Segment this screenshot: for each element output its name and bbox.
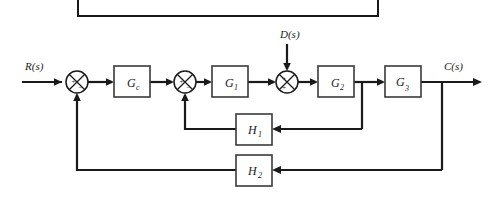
block-diagram-canvas: G c G 1 G 2 G 3 H 1 H [0,0,496,199]
sum3-sign-plus-bottom: + [282,84,286,92]
block-g3-label: G [396,75,405,89]
block-g3[interactable]: G 3 [385,66,421,97]
wire-h1-to-sum2 [185,95,236,129]
block-g1[interactable]: G 1 [212,66,248,97]
arrowhead-g1-in [204,78,212,86]
block-h1-subscript: 1 [258,130,262,139]
sum1-sign-plus: + [72,78,76,86]
arrowhead-h1-in [272,125,281,133]
block-h2-label: H [247,164,258,178]
sum3-sign-plus-top: + [282,75,286,83]
block-g2-label: G [331,76,340,90]
arrowhead-sum2-in [166,78,174,86]
arrowhead-g3-in [377,78,385,86]
arrowhead-sum1-feedback [73,93,81,101]
disturbance-signal-label: D(s) [279,28,300,41]
block-h2-subscript: 2 [258,171,262,180]
block-h2[interactable]: H 2 [236,155,272,186]
block-gc[interactable]: G c [114,66,150,97]
summing-junction-2[interactable]: + − [174,71,196,93]
arrowhead-output [473,78,482,86]
arrowhead-gc-in [106,78,114,86]
sum2-sign-plus: + [180,78,184,86]
arrowhead-h2-in [272,166,281,174]
block-h1-label: H [247,123,258,137]
input-signal-label: R(s) [24,60,44,73]
block-gc-subscript: c [136,83,140,92]
sum1-sign-minus: − [79,84,83,92]
arrowhead-g2-in [310,78,318,86]
block-diagram-figure: G c G 1 G 2 G 3 H 1 H [0,0,496,199]
block-g3-subscript: 3 [404,84,409,93]
block-g2[interactable]: G 2 [318,66,354,97]
wire-h2-to-sum1 [77,95,236,170]
arrowhead-input [54,78,62,86]
block-g1-label: G [225,76,234,90]
block-g1-subscript: 1 [234,83,238,92]
block-g2-subscript: 2 [340,83,344,92]
summing-junction-1[interactable]: + − [66,71,88,93]
arrowhead-disturbance [283,63,291,71]
block-gc-label: G [127,76,136,90]
block-h1[interactable]: H 1 [236,114,272,145]
arrowhead-sum3-in [268,78,276,86]
output-signal-label: C(s) [444,60,463,73]
sum2-sign-minus: − [187,84,191,92]
summing-junction-3[interactable]: + + [276,71,298,93]
arrowhead-sum2-feedback [181,93,189,101]
frame-remnant [78,0,378,16]
